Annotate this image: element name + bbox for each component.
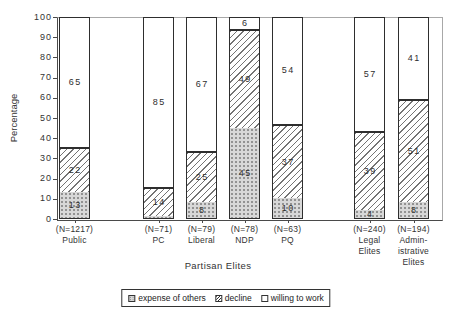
segment-value-label: 45 (237, 169, 252, 178)
legend-label: expense of others (138, 293, 206, 303)
y-tick-label: 90 (20, 33, 52, 42)
category-label-line: Public (43, 235, 107, 246)
category-label-line: (N=194) (382, 224, 446, 235)
y-tick-label: 50 (20, 114, 52, 123)
category-label-line: PQ (256, 235, 320, 246)
x-tick-mark (288, 220, 289, 223)
segment-plain-white: 85 (144, 18, 173, 188)
segment-value-label: 49 (237, 75, 252, 84)
y-tick-label: 10 (20, 194, 52, 203)
segment-dotted-gray: 4 (355, 210, 384, 218)
y-tick-label: 70 (20, 73, 52, 82)
segment-value-label: 4 (365, 210, 373, 219)
segment-plain-white: 65 (60, 18, 89, 148)
segment-value-label: 22 (67, 166, 82, 175)
plain-white-swatch-icon (261, 295, 268, 302)
segment-dotted-gray: 13 (60, 192, 89, 218)
segment-diagonal-hatch: 49 (230, 30, 259, 128)
bar-elites: 43957 (354, 17, 385, 219)
bar-pc: 1485 (143, 17, 174, 219)
x-axis-title: Partisan Elites (158, 260, 278, 271)
y-tick-label: 40 (20, 134, 52, 143)
bar-public: 132265 (59, 17, 90, 219)
y-tick-mark (53, 138, 57, 139)
segment-dotted-gray: 8 (399, 202, 428, 218)
segment-diagonal-hatch: 25 (187, 152, 216, 202)
y-tick-label: 100 (20, 13, 52, 22)
x-tick-mark (245, 220, 246, 223)
category-label: (N=63)PQ (256, 224, 320, 246)
x-tick-mark (414, 220, 415, 223)
segment-plain-white: 6 (230, 18, 259, 30)
segment-plain-white: 67 (187, 18, 216, 152)
category-label: (N=1217)Public (43, 224, 107, 246)
segment-value-label: 13 (67, 201, 82, 210)
diagonal-hatch-swatch-icon (215, 295, 222, 302)
y-tick-mark (53, 158, 57, 159)
segment-value-label: 41 (406, 54, 421, 63)
segment-value-label: 6 (240, 19, 248, 28)
segment-value-label: 8 (409, 206, 417, 215)
segment-value-label: 14 (151, 198, 166, 207)
x-tick-mark (75, 220, 76, 223)
y-tick-mark (53, 199, 57, 200)
y-tick-mark (53, 219, 57, 220)
segment-value-label: 67 (194, 80, 209, 89)
segment-diagonal-hatch: 14 (144, 188, 173, 216)
y-tick-label: 30 (20, 154, 52, 163)
segment-plain-white: 57 (355, 18, 384, 132)
segment-diagonal-hatch: 37 (273, 125, 302, 198)
legend-label: decline (225, 293, 252, 303)
y-tick-label: 80 (20, 53, 52, 62)
bar-liberal: 82567 (186, 17, 217, 219)
segment-diagonal-hatch: 39 (355, 132, 384, 210)
segment-value-label: 8 (197, 206, 205, 215)
category-label-line: (N=1217) (43, 224, 107, 235)
y-tick-mark (53, 17, 57, 18)
bar-elites: 85141 (398, 17, 429, 219)
segment-dotted-gray: 8 (187, 202, 216, 218)
y-tick-mark (53, 118, 57, 119)
x-tick-mark (370, 220, 371, 223)
legend-label: willing to work (271, 293, 324, 303)
y-tick-mark (53, 57, 57, 58)
segment-value-label: 10 (280, 204, 295, 213)
stacked-bar-chart: Percentage Partisan Elites expense of ot… (0, 0, 452, 321)
segment-diagonal-hatch: 22 (60, 148, 89, 192)
category-label: (N=194)Admin-istrativeElites (382, 224, 446, 268)
y-tick-label: 60 (20, 93, 52, 102)
segment-value-label: 85 (151, 98, 166, 107)
legend: expense of others decline willing to wor… (121, 289, 330, 307)
y-tick-mark (53, 78, 57, 79)
category-label-line: Elites (382, 257, 446, 268)
y-tick-label: 20 (20, 174, 52, 183)
category-label-line: istrative (382, 246, 446, 257)
segment-diagonal-hatch: 51 (399, 100, 428, 202)
y-tick-mark (53, 37, 57, 38)
bar-pq: 103754 (272, 17, 303, 219)
segment-plain-white: 54 (273, 18, 302, 125)
legend-item-expense-of-others: expense of others (128, 293, 206, 303)
segment-value-label: 57 (362, 70, 377, 79)
legend-item-willing-to-work: willing to work (261, 293, 324, 303)
segment-plain-white: 41 (399, 18, 428, 100)
y-tick-label: 0 (20, 215, 52, 224)
y-axis-title: Percentage (8, 17, 20, 219)
y-tick-mark (53, 179, 57, 180)
dotted-gray-swatch-icon (128, 295, 135, 302)
segment-dotted-gray (144, 216, 173, 218)
segment-value-label: 37 (280, 158, 295, 167)
segment-value-label: 25 (194, 173, 209, 182)
x-tick-mark (159, 220, 160, 223)
category-label-line: (N=63) (256, 224, 320, 235)
category-label-line: Admin- (382, 235, 446, 246)
segment-value-label: 54 (280, 66, 295, 75)
segment-value-label: 39 (362, 167, 377, 176)
x-tick-mark (202, 220, 203, 223)
legend-item-decline: decline (215, 293, 252, 303)
segment-value-label: 65 (67, 78, 82, 87)
segment-value-label: 51 (406, 147, 421, 156)
segment-dotted-gray: 10 (273, 198, 302, 218)
y-tick-mark (53, 98, 57, 99)
segment-dotted-gray: 45 (230, 128, 259, 218)
